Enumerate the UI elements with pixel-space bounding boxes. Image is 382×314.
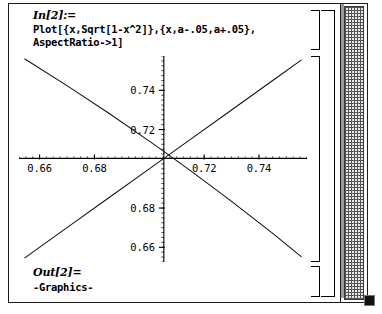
output-cell-bracket[interactable] <box>311 266 320 297</box>
y-axis-tick-label: 0.68 <box>130 202 155 214</box>
x-axis-tick-label: 0.68 <box>82 162 107 174</box>
output-prompt-label: Out[2]= <box>33 266 82 279</box>
y-axis-tick-label: 0.66 <box>130 241 155 253</box>
notebook-page[interactable]: In[2]:= Plot[{x,Sqrt[1-x^2]},{x,a-.05,a+… <box>9 4 339 302</box>
input-cell-bracket[interactable] <box>311 10 320 50</box>
notebook-window: In[2]:= Plot[{x,Sqrt[1-x^2]},{x,a-.05,a+… <box>8 3 368 303</box>
input-code-line-1: Plot[{x,Sqrt[1-x^2]},{x,a-.05,a+.05}, <box>33 23 256 35</box>
scrollbar-track[interactable] <box>344 6 364 300</box>
input-code-text[interactable]: Plot[{x,Sqrt[1-x^2]},{x,a-.05,a+.05}, As… <box>33 23 256 49</box>
notebook-outer-cell-bracket[interactable] <box>321 10 335 297</box>
plot-curve <box>24 60 301 258</box>
graphics-cell-bracket[interactable] <box>311 56 320 262</box>
input-prompt-label: In[2]:= <box>33 9 76 22</box>
input-code-line-2: AspectRatio->1] <box>33 36 123 48</box>
plot-svg: 0.660.680.720.740.660.680.720.74 <box>19 56 307 262</box>
output-value-text: -Graphics- <box>33 281 93 293</box>
x-axis-tick-label: 0.66 <box>27 162 52 174</box>
plot-graphics[interactable]: 0.660.680.720.740.660.680.720.74 <box>19 56 307 262</box>
vertical-scrollbar[interactable] <box>340 4 367 302</box>
screen: In[2]:= Plot[{x,Sqrt[1-x^2]},{x,a-.05,a+… <box>0 0 382 314</box>
x-axis-tick-label: 0.74 <box>247 162 272 174</box>
window-resize-grip[interactable] <box>364 295 375 306</box>
y-axis-tick-label: 0.72 <box>130 124 155 136</box>
y-axis-tick-label: 0.74 <box>130 84 155 96</box>
x-axis-tick-label: 0.72 <box>192 162 217 174</box>
